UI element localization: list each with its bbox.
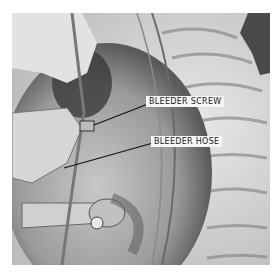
callout-bleeder-hose: BLEEDER HOSE (151, 136, 222, 147)
callout-bleeder-screw: BLEEDER SCREW (146, 96, 224, 107)
brake-bleeding-photo (12, 13, 270, 265)
photo-illustration (12, 13, 270, 265)
